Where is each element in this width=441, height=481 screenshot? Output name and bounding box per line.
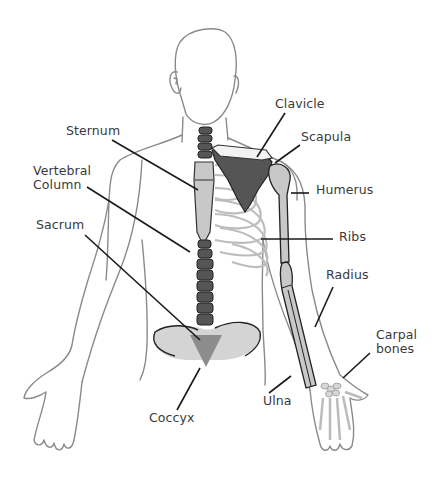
sternum-leader: [112, 140, 198, 190]
label-sternum: Sternum: [66, 124, 120, 138]
label-ribs: Ribs: [339, 230, 366, 244]
sternum-bone: [194, 162, 214, 245]
label-coccyx: Coccyx: [149, 411, 195, 425]
coccyx-leader: [177, 368, 200, 410]
hand-bones: [320, 383, 362, 440]
carpal-bones-leader: [343, 353, 370, 378]
label-carpal-bones: Carpal bones: [376, 328, 417, 356]
humerus-bone: [269, 164, 291, 263]
label-radius: Radius: [326, 268, 369, 282]
label-ulna: Ulna: [263, 394, 292, 408]
clavicle-leader: [257, 113, 285, 157]
label-humerus: Humerus: [316, 183, 373, 197]
ulna-leader: [269, 376, 291, 393]
skeleton-diagram: [0, 0, 441, 481]
lumbar-vertebrae: [197, 240, 213, 325]
scapula-leader: [275, 145, 300, 163]
label-scapula: Scapula: [301, 130, 351, 144]
radius-leader: [315, 287, 333, 327]
label-clavicle: Clavicle: [275, 97, 325, 111]
cervical-vertebrae: [198, 127, 212, 158]
label-sacrum: Sacrum: [36, 218, 84, 232]
label-vertebral-column: Vertebral Column: [33, 164, 91, 192]
